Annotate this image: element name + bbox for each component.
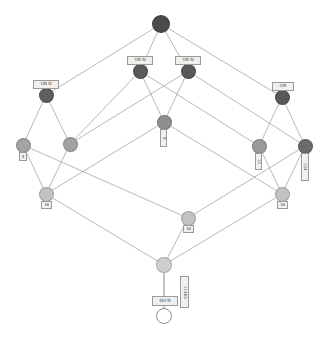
- graph-node-n13[interactable]: [156, 257, 172, 273]
- graph-edge: [164, 122, 282, 194]
- graph-node-n5[interactable]: [157, 115, 172, 130]
- node-label-or-n1: OR N: [127, 56, 153, 65]
- graph-edge: [46, 194, 164, 265]
- graph-node-n12[interactable]: [181, 211, 196, 226]
- node-label-or-n4: OR: [272, 82, 294, 91]
- diagram-canvas: OR NOR NOR NOR8412124161616GO N11465: [0, 0, 327, 337]
- node-label-lbl-n12: 16: [183, 225, 194, 233]
- node-label-or-n3: OR N: [33, 80, 59, 89]
- graph-edge: [46, 122, 164, 194]
- graph-node-n10[interactable]: [39, 187, 54, 202]
- graph-edges-layer: [0, 0, 327, 337]
- graph-edge: [70, 71, 188, 144]
- node-label-or-n2: OR N: [175, 56, 201, 65]
- graph-node-n2[interactable]: [181, 64, 196, 79]
- node-label-lbl-n11: 16: [277, 201, 288, 209]
- graph-node-n14[interactable]: [156, 308, 172, 324]
- node-label-bottom-side: 11465: [180, 276, 189, 308]
- graph-node-n4[interactable]: [275, 90, 290, 105]
- graph-edge: [23, 95, 46, 145]
- node-label-lbl-n8: 12: [255, 153, 262, 170]
- node-label-bottom-gate: GO N: [152, 296, 178, 306]
- graph-node-n7[interactable]: [63, 137, 78, 152]
- node-label-lbl-n6: 4: [19, 152, 27, 161]
- graph-node-n11[interactable]: [275, 187, 290, 202]
- graph-node-n8[interactable]: [252, 139, 267, 154]
- graph-node-n9[interactable]: [298, 139, 313, 154]
- graph-node-n0[interactable]: [152, 15, 170, 33]
- graph-node-n1[interactable]: [133, 64, 148, 79]
- node-label-lbl-n10: 16: [41, 201, 52, 209]
- graph-edge: [164, 194, 282, 265]
- node-label-lbl-n5: 8: [160, 129, 167, 147]
- node-label-lbl-n9: 124: [301, 153, 309, 181]
- graph-node-n3[interactable]: [39, 88, 54, 103]
- graph-node-n6[interactable]: [16, 138, 31, 153]
- graph-edge: [46, 95, 70, 144]
